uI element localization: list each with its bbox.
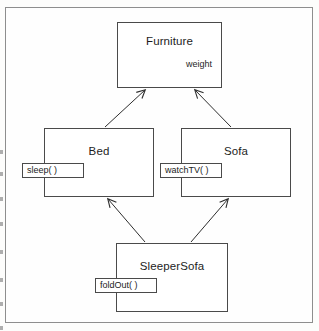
connector-bed-to-furniture	[105, 90, 145, 127]
connector-sleepersofa-to-bed	[108, 199, 145, 242]
class-name-sofa: Sofa	[182, 145, 290, 157]
operation-label-sleep[interactable]: sleep( )	[22, 163, 84, 178]
diagram-canvas: Furniture weight Bed Sofa SleeperSofa sl…	[0, 0, 319, 331]
connector-sleepersofa-to-sofa	[191, 199, 228, 242]
class-name-sleepersofa: SleeperSofa	[117, 260, 227, 272]
class-name-furniture: Furniture	[118, 35, 221, 47]
operation-label-watchtv[interactable]: watchTV( )	[160, 163, 222, 178]
class-box-furniture[interactable]: Furniture weight	[117, 22, 222, 88]
class-name-bed: Bed	[45, 145, 153, 157]
connector-sofa-to-furniture	[195, 90, 231, 127]
operation-label-foldout[interactable]: foldOut( )	[95, 278, 157, 293]
class-attribute-weight: weight	[186, 59, 212, 69]
